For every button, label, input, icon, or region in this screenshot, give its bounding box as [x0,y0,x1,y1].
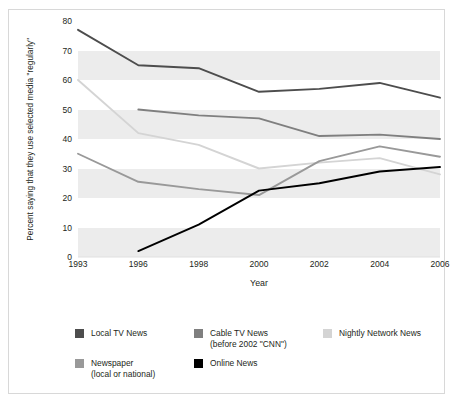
series-line [138,110,440,140]
y-axis-tick: 40 [63,135,72,144]
x-axis-title: Year [78,278,440,288]
x-axis-tick: 2000 [250,260,269,269]
series-line [78,30,440,98]
plot-area [78,21,440,257]
legend-label: Cable TV News (before 2002 "CNN") [210,328,287,349]
series-line [78,80,440,174]
y-axis-tick: 50 [63,105,72,114]
y-axis-tick: 70 [63,46,72,55]
legend-item[interactable]: Nightly Network News [323,328,421,339]
y-axis-tick: 20 [63,194,72,203]
legend-swatch-icon [323,329,332,338]
series-lines [78,21,440,257]
legend-label: Newspaper (local or national) [91,358,155,379]
chart-figure: Percent saying that they use selected me… [8,9,445,394]
y-axis-tick: 10 [63,223,72,232]
legend-swatch-icon [194,359,203,368]
legend-label: Local TV News [91,328,147,339]
legend-item[interactable]: Local TV News [75,328,147,339]
plot-wrapper [78,21,440,257]
legend-item[interactable]: Newspaper (local or national) [75,358,155,379]
legend-item[interactable]: Cable TV News (before 2002 "CNN") [194,328,287,349]
legend-item[interactable]: Online News [194,358,257,369]
legend-label: Nightly Network News [339,328,421,339]
legend-label: Online News [210,358,257,369]
y-axis-tick: 80 [63,17,72,26]
y-axis-tick: 30 [63,164,72,173]
legend-swatch-icon [194,329,203,338]
x-axis-tick: 2004 [370,260,389,269]
x-axis-tick: 1993 [69,260,88,269]
legend-swatch-icon [75,359,84,368]
x-axis-tick: 1998 [189,260,208,269]
chart-legend: Local TV NewsCable TV News (before 2002 … [9,310,446,390]
x-axis-tick: 2002 [310,260,329,269]
x-axis-tick: 1996 [129,260,148,269]
y-axis-tick-labels: 01020304050607080 [9,10,75,268]
x-axis-tick: 2006 [431,260,450,269]
x-axis-tick-labels: 1993199619982000200220042006 [78,260,440,274]
legend-swatch-icon [75,329,84,338]
series-line [138,167,440,251]
y-axis-tick: 60 [63,76,72,85]
